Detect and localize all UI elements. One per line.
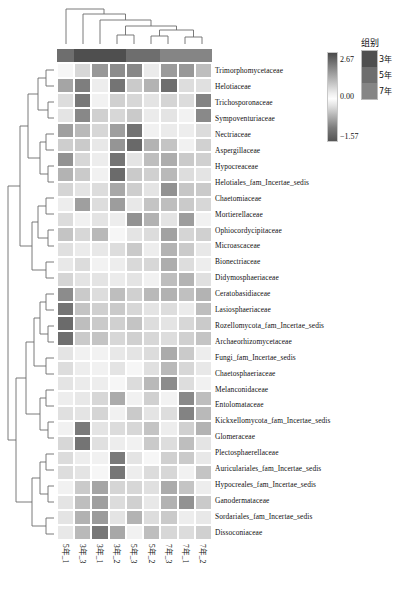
- row-label: Archaeorhizomycetaceae: [215, 333, 395, 349]
- heatmap-cell: [91, 465, 108, 480]
- heatmap-cell: [74, 63, 91, 78]
- heatmap-cell: [178, 182, 195, 197]
- heatmap-cell: [91, 63, 108, 78]
- heatmap-cell: [195, 167, 212, 182]
- heatmap-cell: [160, 480, 177, 495]
- heatmap-cell: [126, 465, 143, 480]
- heatmap-cell: [74, 495, 91, 510]
- row-label: Melanconidaceae: [215, 381, 395, 397]
- heatmap-cell: [91, 302, 108, 317]
- heatmap-cell: [178, 331, 195, 346]
- heatmap-cell: [57, 376, 74, 391]
- heatmap-cell: [109, 197, 126, 212]
- column-label: 3年_3: [74, 542, 91, 596]
- heatmap-cell: [126, 212, 143, 227]
- heatmap-cell: [74, 406, 91, 421]
- heatmap-cell: [160, 212, 177, 227]
- heatmap-cell: [143, 436, 160, 451]
- group-annotation-cell: [109, 49, 126, 62]
- heatmap-cell: [57, 331, 74, 346]
- heatmap-cell: [91, 108, 108, 123]
- heatmap-cell: [126, 123, 143, 138]
- heatmap-cell: [74, 302, 91, 317]
- heatmap-cell: [109, 257, 126, 272]
- heatmap-cell: [109, 376, 126, 391]
- heatmap-cell: [74, 182, 91, 197]
- row-label: Kickxellomycota_fam_Incertae_sedis: [215, 413, 395, 429]
- heatmap-cell: [109, 167, 126, 182]
- heatmap-cell: [195, 391, 212, 406]
- heatmap-cell: [143, 197, 160, 212]
- heatmap-cell: [74, 346, 91, 361]
- group-annotation-cell: [195, 49, 212, 62]
- heatmap-cell: [143, 152, 160, 167]
- heatmap-cell: [126, 227, 143, 242]
- column-label-text: 3年_2: [112, 544, 123, 563]
- heatmap-cell: [91, 167, 108, 182]
- row-label: Didymosphaeriaceae: [215, 270, 395, 286]
- heatmap-figure: TrimorphomycetaceaeHelotiaceaeTrichospor…: [0, 0, 398, 598]
- heatmap-cell: [109, 182, 126, 197]
- heatmap-cell: [178, 406, 195, 421]
- heatmap-cell: [178, 197, 195, 212]
- heatmap-cell: [195, 480, 212, 495]
- heatmap-cell: [126, 257, 143, 272]
- heatmap-cell: [109, 108, 126, 123]
- heatmap-cell: [178, 495, 195, 510]
- heatmap-cell: [91, 138, 108, 153]
- heatmap-cell: [57, 167, 74, 182]
- heatmap-cell: [57, 361, 74, 376]
- heatmap-cell: [126, 78, 143, 93]
- heatmap-cell: [91, 346, 108, 361]
- group-legend-title: 组别: [361, 36, 379, 49]
- heatmap-cell: [160, 376, 177, 391]
- heatmap-cell: [57, 272, 74, 287]
- heatmap-cell: [126, 63, 143, 78]
- heatmap-cell: [57, 123, 74, 138]
- heatmap-cell: [178, 525, 195, 540]
- heatmap-cell: [74, 242, 91, 257]
- column-label-text: 3年_1: [95, 544, 106, 563]
- heatmap-cell: [195, 525, 212, 540]
- heatmap-cell: [109, 242, 126, 257]
- heatmap-cell: [178, 436, 195, 451]
- heatmap-cell: [74, 167, 91, 182]
- heatmap-cell: [178, 361, 195, 376]
- row-label: Aspergillaceae: [215, 143, 395, 159]
- heatmap-cell: [143, 108, 160, 123]
- heatmap-cell: [178, 152, 195, 167]
- heatmap-cell: [126, 406, 143, 421]
- heatmap-cell: [178, 287, 195, 302]
- group-legend-swatch: [362, 51, 377, 67]
- group-legend: 组别 3年5年7年: [359, 36, 398, 116]
- heatmap-cell: [178, 480, 195, 495]
- heatmap-cell: [126, 525, 143, 540]
- heatmap-cell: [178, 421, 195, 436]
- heatmap-cell: [57, 287, 74, 302]
- heatmap-cell: [160, 123, 177, 138]
- heatmap-cell: [74, 152, 91, 167]
- heatmap-cell: [160, 63, 177, 78]
- heatmap-cell: [143, 272, 160, 287]
- heatmap-cell: [57, 346, 74, 361]
- column-label-text: 5年_1: [60, 544, 71, 563]
- heatmap-cell: [126, 152, 143, 167]
- heatmap-cell: [109, 138, 126, 153]
- heatmap-cell: [74, 272, 91, 287]
- group-annotation-cell: [126, 49, 143, 62]
- heatmap-cell: [57, 525, 74, 540]
- heatmap-cell: [91, 93, 108, 108]
- heatmap-cell: [195, 182, 212, 197]
- heatmap-cell: [143, 346, 160, 361]
- heatmap-cell: [57, 242, 74, 257]
- column-label: 3年_1: [91, 542, 108, 596]
- heatmap-cell: [57, 316, 74, 331]
- heatmap-cell: [126, 361, 143, 376]
- heatmap-cell: [91, 182, 108, 197]
- heatmap-cell: [178, 123, 195, 138]
- heatmap-cell: [57, 227, 74, 242]
- heatmap-cell: [57, 212, 74, 227]
- heatmap-cell: [160, 257, 177, 272]
- heatmap-cell: [160, 525, 177, 540]
- heatmap-cell: [74, 361, 91, 376]
